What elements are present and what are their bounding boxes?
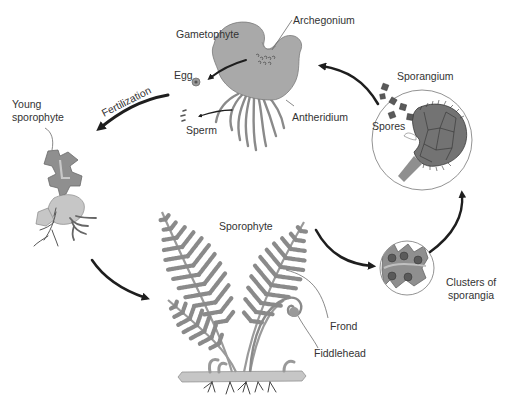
label-sperm: Sperm	[186, 124, 217, 136]
label-clusters-line1: Clusters of	[446, 276, 496, 288]
pinna	[266, 294, 290, 297]
young-sporophyte-leader	[45, 128, 53, 150]
pinna	[245, 299, 256, 312]
pinna	[282, 238, 291, 249]
pinna	[184, 325, 197, 332]
pinna	[160, 219, 166, 220]
label-egg: Egg	[174, 69, 193, 81]
sporangium-zoom-arrow	[430, 194, 462, 252]
pinna	[194, 302, 215, 306]
label-fiddlehead: Fiddlehead	[314, 347, 366, 359]
label-clusters-line2: sporangia	[448, 289, 494, 301]
pinna	[188, 238, 202, 256]
pinna	[276, 276, 300, 279]
pinna	[178, 284, 204, 289]
pinna	[215, 321, 226, 323]
pinna	[164, 228, 171, 229]
label-gametophyte: Gametophyte	[176, 28, 239, 40]
pinna	[256, 312, 273, 314]
fern-pinnae	[160, 215, 307, 349]
pinna	[174, 313, 182, 317]
rhizoids	[216, 94, 284, 150]
label-young-sporophyte-line2: sporophyte	[12, 111, 64, 123]
sperm-icon	[181, 110, 186, 121]
clusters-of-sporangia-illustration	[380, 241, 434, 295]
pinna	[248, 287, 261, 303]
pinna	[210, 344, 218, 348]
pinna	[204, 312, 221, 315]
pinna	[204, 317, 209, 331]
label-sporangium: Sporangium	[397, 70, 454, 82]
pinna	[178, 319, 190, 325]
sperm-release-arrow	[200, 110, 232, 116]
label-archegonium: Archegonium	[293, 14, 355, 26]
label-spores: Spores	[372, 120, 405, 132]
pinna	[271, 285, 296, 288]
growth-arrow	[92, 260, 146, 298]
sporangia-formation-arrow	[316, 230, 372, 266]
fiddlehead-leader	[298, 316, 318, 348]
label-sporophyte: Sporophyte	[219, 220, 273, 232]
pinna	[221, 298, 231, 311]
pinna	[197, 311, 202, 325]
spore-germination-arrow	[322, 66, 378, 104]
pinna	[182, 232, 193, 247]
pinna	[291, 234, 296, 240]
label-antheridium: Antheridium	[292, 111, 348, 123]
label-frond: Frond	[330, 320, 358, 332]
pinna	[168, 265, 193, 269]
rhizome	[178, 371, 306, 382]
pinna	[163, 238, 176, 240]
pinna	[215, 285, 228, 302]
pinna	[191, 331, 204, 338]
pinna	[185, 293, 209, 297]
antheridium-leader	[286, 100, 294, 106]
sporophyte-fern-illustration	[160, 212, 328, 394]
pinna	[261, 303, 282, 306]
pinna	[200, 338, 212, 344]
sporangium-illustration	[372, 83, 472, 190]
pinna	[281, 267, 303, 270]
pinna	[286, 258, 305, 261]
fern-life-cycle-diagram: Gametophyte Archegonium Egg Sperm Anther…	[0, 0, 508, 408]
pinna	[274, 244, 286, 258]
pinna	[297, 227, 301, 231]
label-young-sporophyte-line1: Young	[12, 98, 42, 110]
pinna	[244, 312, 251, 321]
egg-icon	[192, 78, 200, 86]
young-sporophyte-illustration	[34, 128, 96, 246]
pinna	[172, 275, 199, 280]
pinna	[171, 306, 175, 308]
